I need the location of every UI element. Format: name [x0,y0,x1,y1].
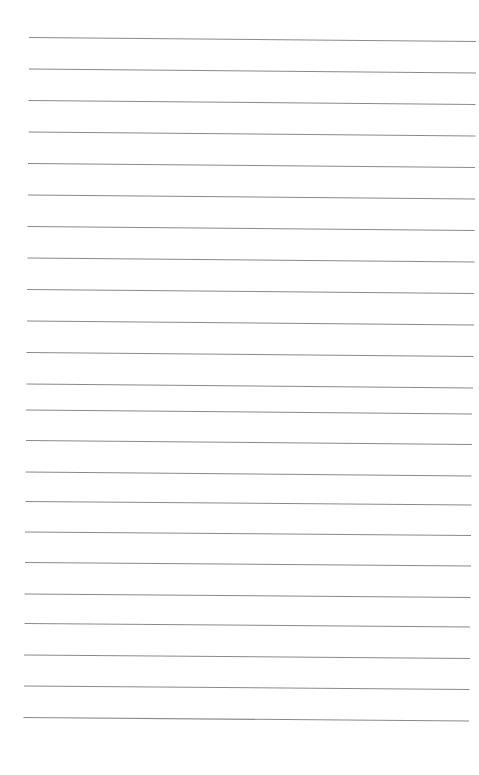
ruled-line-18 [25,563,471,567]
ruled-line-21 [24,655,470,659]
ruled-line-16 [26,502,472,506]
ruled-line-15 [26,472,472,476]
ruled-line-8 [28,258,475,262]
ruled-line-22 [24,686,470,690]
ruled-line-7 [28,227,475,231]
lined-paper-page [0,0,479,775]
ruled-line-6 [28,195,475,199]
ruled-line-2 [29,69,476,73]
ruled-lines [0,0,479,775]
ruled-line-12 [27,384,474,388]
ruled-line-17 [25,532,471,536]
ruled-line-9 [27,290,474,294]
ruled-line-4 [29,132,476,136]
ruled-line-19 [25,594,471,598]
ruled-line-3 [29,101,476,105]
ruled-line-14 [26,441,472,445]
ruled-line-23 [24,718,470,722]
ruled-line-11 [27,353,474,357]
ruled-line-10 [27,321,474,325]
ruled-line-5 [28,164,475,168]
ruled-line-1 [29,38,476,42]
ruled-line-20 [25,624,471,628]
ruled-line-13 [26,410,472,414]
